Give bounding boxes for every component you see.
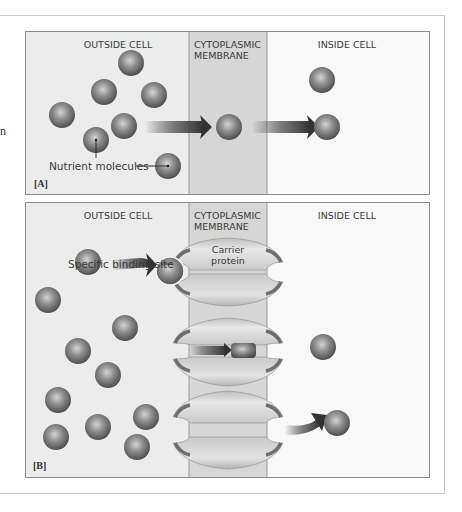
molecule-icon bbox=[141, 82, 167, 108]
transit-arrow bbox=[190, 346, 226, 355]
outside-cell-label: OUTSIDE CELL bbox=[84, 210, 153, 221]
molecule-icon bbox=[45, 387, 71, 413]
inside-cell-label: INSIDE CELL bbox=[318, 39, 377, 50]
molecule-icon bbox=[310, 334, 336, 360]
panel-b: OUTSIDE CELL CYTOPLASMIC MEMBRANE INSIDE… bbox=[25, 202, 430, 478]
molecule-icon bbox=[133, 404, 159, 430]
carrier-protein-label-line1: Carrier bbox=[212, 244, 245, 255]
molecule-icon bbox=[95, 362, 121, 388]
molecule-icon bbox=[43, 424, 69, 450]
outside-cell-label: OUTSIDE CELL bbox=[84, 39, 153, 50]
molecule-icon bbox=[118, 50, 144, 76]
panel-a: OUTSIDE CELL CYTOPLASMIC MEMBRANE INSIDE… bbox=[25, 31, 430, 195]
membrane-label-line1: CYTOPLASMIC bbox=[194, 39, 261, 50]
membrane-label-line2: MEMBRANE bbox=[194, 50, 249, 61]
molecule-icon bbox=[65, 338, 91, 364]
molecule-icon bbox=[49, 102, 75, 128]
binding-site-label: Specific binding site bbox=[68, 258, 174, 270]
molecule-icon bbox=[124, 434, 150, 460]
membrane-label-line2: MEMBRANE bbox=[194, 221, 249, 232]
inside-cell-label: INSIDE CELL bbox=[318, 210, 377, 221]
molecule-icon bbox=[112, 315, 138, 341]
panel-tag-b: [B] bbox=[33, 460, 46, 471]
inside-region bbox=[267, 202, 430, 478]
molecule-icon bbox=[216, 114, 242, 140]
molecule-icon bbox=[231, 343, 256, 358]
nutrient-molecules-label: Nutrient molecules bbox=[49, 160, 149, 172]
carrier-protein-label-line2: protein bbox=[211, 255, 245, 266]
molecule-icon bbox=[111, 113, 137, 139]
transport-diagram: OUTSIDE CELL CYTOPLASMIC MEMBRANE INSIDE… bbox=[0, 0, 462, 512]
molecule-icon bbox=[314, 114, 340, 140]
molecule-icon bbox=[324, 410, 350, 436]
inside-region bbox=[267, 31, 430, 195]
molecule-icon bbox=[91, 79, 117, 105]
panel-tag-a: [A] bbox=[34, 178, 48, 189]
molecule-icon bbox=[309, 67, 335, 93]
membrane-label-line1: CYTOPLASMIC bbox=[194, 210, 261, 221]
molecule-icon bbox=[85, 414, 111, 440]
molecule-icon bbox=[35, 287, 61, 313]
